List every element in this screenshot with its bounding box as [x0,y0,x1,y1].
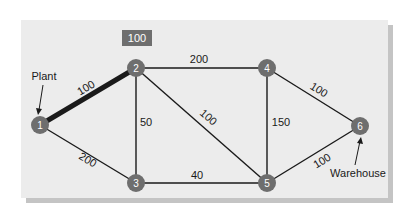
node-1[interactable]: 1 [31,116,49,134]
node-6[interactable]: 6 [351,117,369,135]
flow-badge: 100 [122,30,152,46]
node-6-label: 6 [357,121,363,132]
node-3[interactable]: 3 [127,174,145,192]
badge-label: 100 [128,32,146,44]
node-4-label: 4 [264,63,270,74]
node-2[interactable]: 2 [127,59,145,77]
warehouse-label: Warehouse [330,167,386,179]
weight-3-5: 40 [191,169,203,181]
node-5-label: 5 [264,178,270,189]
node-2-label: 2 [133,63,139,74]
network-diagram: 100 100 200 50 200 100 40 150 100 100 1 … [0,0,420,221]
node-5[interactable]: 5 [258,174,276,192]
plant-label: Plant [31,70,56,82]
node-3-label: 3 [133,178,139,189]
node-4[interactable]: 4 [258,59,276,77]
node-1-label: 1 [37,120,43,131]
weight-4-5: 150 [272,116,290,128]
weight-2-4: 200 [190,53,208,65]
weight-2-3: 50 [140,116,152,128]
